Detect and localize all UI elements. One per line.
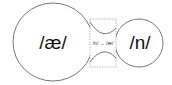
right-phoneme-label: /n/ (129, 32, 151, 53)
phoneme-transition-diagram: /æ/ /n/ /n/ → /æ/ (0, 0, 172, 85)
transition-label: /n/ → /æ/ (93, 40, 114, 46)
left-phoneme-label: /æ/ (39, 32, 67, 53)
